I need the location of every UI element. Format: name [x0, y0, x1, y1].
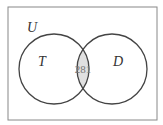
set-d-label: D — [112, 54, 123, 69]
intersection-value: 281 — [75, 63, 92, 75]
universe-label: U — [27, 20, 38, 35]
venn-diagram: U T D 281 — [0, 0, 163, 125]
set-t-label: T — [38, 54, 47, 69]
